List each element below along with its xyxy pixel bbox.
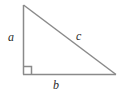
triangle-label-c: c <box>76 30 81 42</box>
triangle-drawing <box>0 0 122 96</box>
triangle-side-c-line <box>24 5 117 75</box>
right-triangle-figure: a c b <box>0 0 122 96</box>
right-angle-marker-icon <box>24 67 32 75</box>
triangle-label-a: a <box>8 31 14 43</box>
triangle-label-b: b <box>53 79 59 91</box>
